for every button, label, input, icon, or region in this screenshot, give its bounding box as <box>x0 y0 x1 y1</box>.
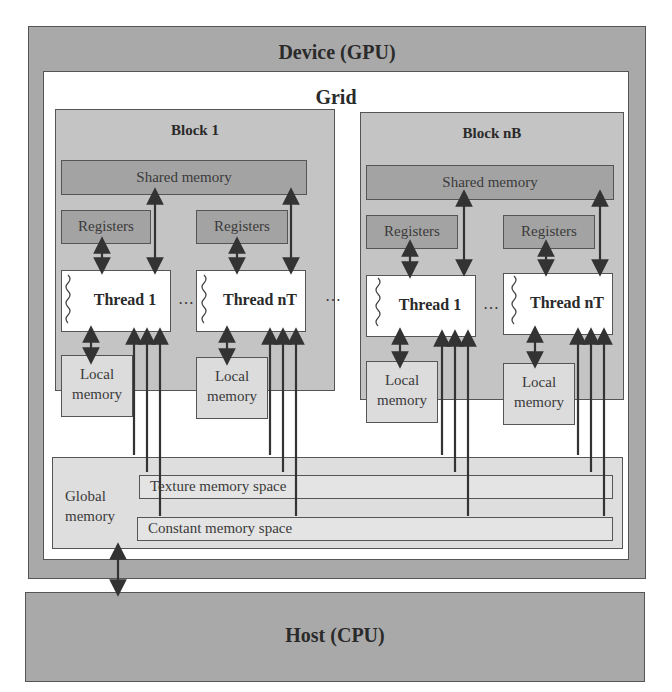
global-memory: Global memory Texture memory space Const… <box>52 457 623 549</box>
block-nb: Block nB Shared memory Registers Registe… <box>360 112 624 400</box>
thread-nt: Thread nT <box>196 270 306 332</box>
device-gpu: Device (GPU) Grid Block 1 Shared memory … <box>28 26 646 579</box>
thread-ellipsis: … <box>178 290 194 308</box>
thread-label: Thread 1 <box>94 291 156 308</box>
device-title: Device (GPU) <box>29 41 645 64</box>
registers: Registers <box>61 210 151 244</box>
thread-label: Thread nT <box>530 294 604 311</box>
host-cpu: Host (CPU) <box>25 592 645 682</box>
thread-label: Thread 1 <box>399 296 461 313</box>
block-ellipsis: … <box>325 287 341 305</box>
global-memory-label: Global memory <box>65 486 115 526</box>
global-label-line1: Global <box>65 486 115 506</box>
block-title: Block nB <box>361 125 623 142</box>
local-memory-line2: memory <box>62 384 132 404</box>
local-memory: Local memory <box>366 361 438 423</box>
global-label-line2: memory <box>65 506 115 526</box>
shared-memory: Shared memory <box>61 160 307 195</box>
registers: Registers <box>366 215 458 249</box>
grid: Grid Block 1 Shared memory Registers Reg… <box>43 71 629 560</box>
thread-label: Thread nT <box>223 291 297 308</box>
local-memory-line1: Local <box>197 366 267 386</box>
local-memory: Local memory <box>196 357 268 419</box>
block-1: Block 1 Shared memory Registers Register… <box>55 109 335 391</box>
local-memory-line1: Local <box>367 370 437 390</box>
texture-memory-space: Texture memory space <box>139 475 613 499</box>
registers: Registers <box>503 215 595 249</box>
local-memory: Local memory <box>61 355 133 417</box>
local-memory-line2: memory <box>197 386 267 406</box>
local-memory-line1: Local <box>62 364 132 384</box>
local-memory-line2: memory <box>367 390 437 410</box>
local-memory-line2: memory <box>504 392 574 412</box>
local-memory-line1: Local <box>504 372 574 392</box>
local-memory: Local memory <box>503 363 575 425</box>
thread-nt: Thread nT <box>503 273 613 335</box>
constant-memory-space: Constant memory space <box>137 517 613 541</box>
block-title: Block 1 <box>56 122 334 139</box>
thread-1: Thread 1 <box>61 270 171 332</box>
shared-memory: Shared memory <box>366 165 614 200</box>
thread-ellipsis: … <box>483 295 499 313</box>
registers: Registers <box>196 210 288 244</box>
thread-1: Thread 1 <box>366 275 476 337</box>
grid-title: Grid <box>44 86 628 109</box>
